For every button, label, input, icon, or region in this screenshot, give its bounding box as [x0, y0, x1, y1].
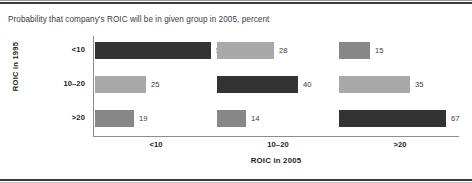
bar-value-r2c0: 19	[139, 110, 147, 127]
bar-item: 14	[217, 110, 259, 127]
bar-rect-r2c1	[217, 110, 246, 127]
bar-item: 67	[339, 110, 459, 127]
bar-value-r2c1: 14	[251, 110, 259, 127]
bar-item: 57	[95, 42, 224, 59]
row-label-gt20: >20	[72, 111, 85, 125]
bar-item: 28	[217, 42, 287, 59]
bar-rect-r1c1	[217, 76, 298, 93]
row-label-lt10: <10	[72, 43, 85, 57]
bar-value-r0c2: 15	[375, 42, 383, 59]
chart-subtitle: Probability that company's ROIC will be …	[8, 15, 269, 25]
bottom-rule-divider	[0, 179, 472, 181]
bar-value-r0c1: 28	[279, 42, 287, 59]
bar-value-r1c2: 35	[415, 76, 423, 93]
plot-area: <10 10–20 >20 57 25 19 28	[45, 36, 463, 140]
bar-value-r2c2: 67	[451, 110, 459, 127]
row-label-column: <10 10–20 >20	[45, 36, 89, 140]
x-axis-title: ROIC in 2005	[93, 156, 459, 165]
bar-rect-r0c0	[95, 42, 211, 59]
bar-item: 15	[339, 42, 383, 59]
bar-value-r1c1: 40	[303, 76, 311, 93]
bar-rect-r2c2	[339, 110, 446, 127]
bar-rect-r2c0	[95, 110, 134, 127]
bar-item: 25	[95, 76, 159, 93]
bar-rect-r1c0	[95, 76, 146, 93]
bar-value-r1c0: 25	[151, 76, 159, 93]
y-axis-title: ROIC in 1995	[11, 35, 20, 99]
bar-group-10-20: 28 40 14	[217, 36, 339, 136]
x-tick-gt20: >20	[339, 140, 461, 149]
bar-rect-r1c2	[339, 76, 410, 93]
exhibit-chart-panel: Probability that company's ROIC will be …	[0, 0, 472, 183]
x-axis-line	[93, 136, 459, 137]
bar-item: 19	[95, 110, 147, 127]
top-hairline-divider	[0, 0, 472, 1]
bar-item: 35	[339, 76, 423, 93]
x-axis-tick-labels: <10 10–20 >20	[93, 140, 459, 152]
bar-group-lt10: 57 25 19	[95, 36, 217, 136]
x-tick-lt10: <10	[95, 140, 217, 149]
row-label-10-20: 10–20	[63, 77, 85, 91]
top-rule-divider	[0, 2, 472, 4]
bar-item: 40	[217, 76, 311, 93]
x-tick-10-20: 10–20	[217, 140, 339, 149]
y-axis-line	[93, 36, 94, 136]
bar-group-gt20: 15 35 67	[339, 36, 461, 136]
bottom-hairline-divider	[0, 182, 472, 183]
bar-rect-r0c1	[217, 42, 274, 59]
bar-rect-r0c2	[339, 42, 370, 59]
